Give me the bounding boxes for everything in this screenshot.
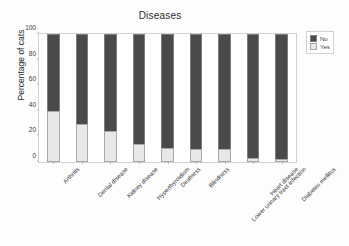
bar-stack xyxy=(190,34,203,162)
bar-segment-yes xyxy=(161,148,174,162)
chart-title: Diseases xyxy=(0,10,320,21)
bar-segment-no xyxy=(247,34,260,158)
x-axis-labels: ArthritisDental diseaseKidney diseaseHyp… xyxy=(38,166,297,228)
bar-segment-no xyxy=(190,34,203,149)
x-tick-label: Kidney disease xyxy=(126,166,159,199)
bar-group xyxy=(47,34,60,162)
bar-segment-yes xyxy=(190,149,203,162)
legend-label: Yes xyxy=(320,44,330,50)
chart-legend: NoYes xyxy=(306,31,334,54)
legend-swatch xyxy=(310,43,317,50)
x-tick-label: Blindness xyxy=(208,166,231,189)
bar-segment-no xyxy=(76,34,89,124)
bar-segment-yes xyxy=(47,111,60,162)
x-tick-label: Lower urinary tract infection xyxy=(251,166,307,222)
legend-item: Yes xyxy=(310,43,330,50)
bar-segment-no xyxy=(218,34,231,149)
bar-stack xyxy=(275,34,288,162)
bar-segment-no xyxy=(275,34,288,159)
x-tick-mark xyxy=(225,162,226,164)
legend-item: No xyxy=(310,35,330,42)
bar-segment-yes xyxy=(104,131,117,162)
bar-segment-yes xyxy=(218,149,231,162)
x-tick-label: Dental disease xyxy=(97,166,129,198)
y-tick-label: 40 xyxy=(29,100,36,107)
bar-segment-no xyxy=(161,34,174,148)
bar-stack xyxy=(76,34,89,162)
y-tick-label: 100 xyxy=(25,24,36,31)
bar-stack xyxy=(247,34,260,162)
bar-segment-yes xyxy=(76,124,89,162)
x-tick-mark xyxy=(110,162,111,164)
x-tick-label: Arthritis xyxy=(62,166,81,185)
x-tick-mark xyxy=(196,162,197,164)
bar-group xyxy=(104,34,117,162)
bar-segment-no xyxy=(133,34,146,144)
bar-group xyxy=(275,34,288,162)
plot-area: 020406080100 xyxy=(38,33,297,163)
x-tick-mark xyxy=(282,162,283,164)
x-tick-mark xyxy=(82,162,83,164)
y-tick-label: 80 xyxy=(29,49,36,56)
x-tick-mark xyxy=(53,162,54,164)
bars-layer xyxy=(39,34,296,162)
bar-group xyxy=(247,34,260,162)
y-tick-label: 0 xyxy=(32,152,36,159)
y-tick-label: 20 xyxy=(29,126,36,133)
legend-swatch xyxy=(310,35,317,42)
bar-stack xyxy=(104,34,117,162)
bar-group xyxy=(190,34,203,162)
x-tick-mark xyxy=(139,162,140,164)
bar-stack xyxy=(133,34,146,162)
bar-group xyxy=(218,34,231,162)
bar-segment-no xyxy=(104,34,117,131)
bar-stack xyxy=(47,34,60,162)
bar-group xyxy=(161,34,174,162)
chart-figure: Diseases Percentage of cats 020406080100… xyxy=(0,0,349,246)
bar-segment-no xyxy=(47,34,60,111)
x-tick-mark xyxy=(253,162,254,164)
bar-group xyxy=(76,34,89,162)
bar-group xyxy=(133,34,146,162)
legend-label: No xyxy=(320,36,328,42)
bar-stack xyxy=(161,34,174,162)
x-tick-mark xyxy=(168,162,169,164)
y-tick-label: 60 xyxy=(29,75,36,82)
bar-stack xyxy=(218,34,231,162)
bar-segment-yes xyxy=(133,144,146,162)
